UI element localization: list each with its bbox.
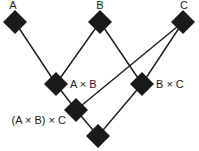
node-axbxc (64, 98, 88, 122)
edge-c-to-axbxc (76, 22, 183, 110)
edge-bxc-to-bottom (98, 84, 142, 136)
node-bottom (86, 124, 110, 148)
label-c: C (180, 0, 188, 11)
node-b (88, 10, 112, 34)
edge-b-to-axb (56, 22, 100, 84)
node-c (171, 10, 195, 34)
label-axb: A × B (70, 78, 97, 90)
edge-c-to-bxc (142, 22, 183, 84)
lattice-diagram: A B C A × B B × C (A × B) × C (0, 0, 199, 151)
edge-a-to-axb (15, 22, 56, 84)
label-axbxc: (A × B) × C (12, 114, 66, 126)
label-a: A (9, 0, 17, 11)
edge-b-to-bxc (100, 22, 142, 84)
node-bxc (130, 72, 154, 96)
node-axb (44, 72, 68, 96)
label-bxc: B × C (156, 78, 184, 90)
node-a (3, 10, 27, 34)
label-b: B (96, 0, 103, 11)
